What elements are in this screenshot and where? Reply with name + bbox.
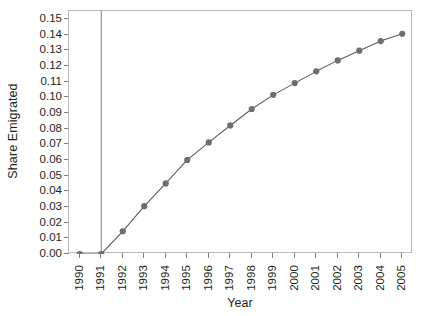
x-tick-mark <box>143 253 144 258</box>
x-tick-label-text: 1998 <box>245 265 257 291</box>
y-axis-title: Share Emigrated <box>0 0 26 262</box>
data-point-markers <box>77 31 406 254</box>
y-axis-tick-labels: 0.000.010.020.030.040.050.060.070.080.09… <box>26 0 66 262</box>
y-tick-label: 0.03 <box>40 200 62 212</box>
x-tick-label: 2002 <box>330 259 344 297</box>
data-point-marker <box>356 48 362 54</box>
y-tick-label: 0.02 <box>40 216 62 228</box>
data-point-marker <box>163 180 169 186</box>
y-tick-label: 0.10 <box>40 90 62 102</box>
x-axis-title: Year <box>68 296 412 310</box>
x-tick-label-text: 1990 <box>73 265 85 291</box>
y-tick-label: 0.08 <box>40 122 62 134</box>
x-tick-mark <box>401 253 402 258</box>
y-tick-label: 0.06 <box>40 153 62 165</box>
y-tick-label: 0.01 <box>40 231 62 243</box>
x-tick-mark <box>208 253 209 258</box>
x-tick-label: 2000 <box>287 259 301 297</box>
plot-area <box>68 10 412 253</box>
figure-container: Share Emigrated 0.000.010.020.030.040.05… <box>0 0 425 316</box>
x-tick-label-text: 2004 <box>374 265 386 291</box>
x-tick-mark <box>165 253 166 258</box>
x-tick-label-text: 2003 <box>352 265 364 291</box>
x-tick-label-text: 1995 <box>180 265 192 291</box>
data-point-marker <box>313 68 319 74</box>
data-point-marker <box>184 157 190 163</box>
y-tick-label: 0.05 <box>40 169 62 181</box>
data-point-marker <box>270 92 276 98</box>
y-tick-label: 0.00 <box>40 247 62 259</box>
x-tick-label: 2001 <box>308 259 322 297</box>
x-tick-label: 1990 <box>72 259 86 297</box>
x-tick-label: 1996 <box>201 259 215 297</box>
x-tick-label-text: 1991 <box>94 265 106 291</box>
data-line-series-1 <box>80 34 403 254</box>
x-tick-label: 1997 <box>222 259 236 297</box>
y-tick-label: 0.11 <box>40 75 62 87</box>
x-tick-mark <box>358 253 359 258</box>
x-tick-label-text: 2005 <box>395 265 407 291</box>
y-tick-label: 0.07 <box>40 137 62 149</box>
x-tick-mark <box>229 253 230 258</box>
x-tick-mark <box>337 253 338 258</box>
y-tick-label: 0.14 <box>40 28 62 40</box>
x-tick-mark <box>100 253 101 258</box>
x-tick-mark <box>294 253 295 258</box>
x-tick-label-text: 2002 <box>331 265 343 291</box>
x-tick-mark <box>272 253 273 258</box>
x-tick-mark <box>251 253 252 258</box>
data-point-marker <box>292 80 298 86</box>
data-point-marker <box>335 57 341 63</box>
x-tick-mark <box>122 253 123 258</box>
data-point-marker <box>141 203 147 209</box>
y-tick-label: 0.15 <box>40 12 62 24</box>
y-tick-label: 0.12 <box>40 59 62 71</box>
x-tick-label: 1995 <box>179 259 193 297</box>
x-tick-label-text: 2001 <box>309 265 321 291</box>
data-point-marker <box>227 122 233 128</box>
x-tick-mark <box>380 253 381 258</box>
x-tick-label-text: 1993 <box>137 265 149 291</box>
x-tick-label-text: 1999 <box>266 265 278 291</box>
y-tick-label: 0.09 <box>40 106 62 118</box>
data-point-marker <box>378 38 384 44</box>
x-tick-label: 2003 <box>351 259 365 297</box>
x-tick-label-text: 2000 <box>288 265 300 291</box>
y-tick-label: 0.13 <box>40 43 62 55</box>
data-point-marker <box>120 228 126 234</box>
x-tick-label: 1992 <box>115 259 129 297</box>
x-tick-label-text: 1992 <box>116 265 128 291</box>
data-point-marker <box>399 31 405 37</box>
x-tick-label: 1991 <box>93 259 107 297</box>
x-tick-mark <box>315 253 316 258</box>
x-tick-mark <box>186 253 187 258</box>
y-tick-label: 0.04 <box>40 184 62 196</box>
x-tick-label: 2004 <box>373 259 387 297</box>
x-tick-mark <box>79 253 80 258</box>
x-axis-tick-labels: 1990199119921993199419951996199719981999… <box>68 259 412 297</box>
x-tick-label-text: 1996 <box>202 265 214 291</box>
data-point-marker <box>249 106 255 112</box>
chart-svg <box>69 11 413 254</box>
x-tick-label: 1993 <box>136 259 150 297</box>
x-tick-label-text: 1997 <box>223 265 235 291</box>
x-tick-label: 2005 <box>394 259 408 297</box>
x-tick-label-text: 1994 <box>159 265 171 291</box>
figure-caption <box>6 309 421 316</box>
x-tick-label: 1994 <box>158 259 172 297</box>
data-point-marker <box>206 139 212 145</box>
x-tick-label: 1999 <box>265 259 279 297</box>
x-tick-label: 1998 <box>244 259 258 297</box>
y-axis-title-text: Share Emigrated <box>6 83 20 178</box>
